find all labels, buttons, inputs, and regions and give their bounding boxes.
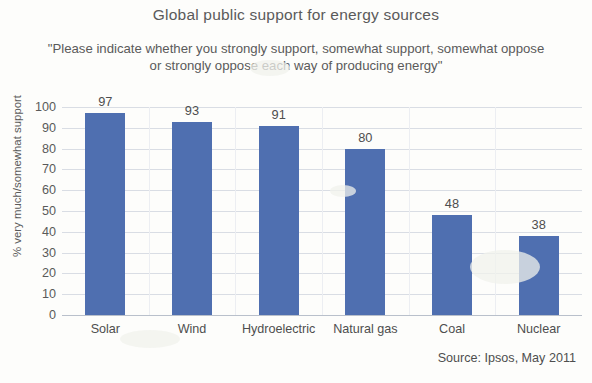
source-note: Source: Ipsos, May 2011 [438,351,576,365]
x-axis-category-label: Nuclear [495,322,582,336]
x-axis-category-label: Hydroelectric [235,322,322,336]
x-axis-category-label: Coal [409,322,496,336]
y-axis-tick-label: 20 [30,267,56,280]
plot-area: 97Solar93Wind91Hydroelectric80Natural ga… [62,107,582,315]
bar[interactable] [259,126,299,315]
y-axis-tick-label: 70 [30,163,56,176]
chart-subtitle-line-1: "Please indicate whether you strongly su… [0,40,592,57]
bar-value-label: 93 [149,105,236,118]
y-axis-tick-label: 40 [30,226,56,239]
bar-value-label: 97 [62,96,149,109]
x-axis-category-label: Wind [149,322,236,336]
chart-subtitle: "Please indicate whether you strongly su… [0,40,592,74]
bar-group: 80Natural gas [322,107,409,315]
bar-group: 97Solar [62,107,149,315]
y-axis-tick-label: 60 [30,184,56,197]
bar-group: 91Hydroelectric [235,107,322,315]
y-axis-tick-label: 100 [30,101,56,114]
y-axis-tick-labels: 1009080706050403020100 [28,107,56,315]
bar-group: 48Coal [409,107,496,315]
bar[interactable] [432,215,472,315]
bar-group: 38Nuclear [495,107,582,315]
x-axis-category-label: Solar [62,322,149,336]
bar-value-label: 38 [495,219,582,232]
chart-subtitle-line-2: or strongly oppose each way of producing… [0,57,592,74]
bar-group: 93Wind [149,107,236,315]
y-axis-tick-label: 80 [30,143,56,156]
y-axis-tick-label: 90 [30,122,56,135]
y-axis-title: % very much/somewhat support [11,81,23,271]
bar[interactable] [172,122,212,315]
bar[interactable] [345,149,385,315]
bar-value-label: 80 [322,132,409,145]
bar-value-label: 91 [235,109,322,122]
y-axis-tick-label: 30 [30,247,56,260]
y-axis-tick-label: 10 [30,288,56,301]
gridline [62,315,582,316]
chart-title: Global public support for energy sources [0,6,592,24]
bar-value-label: 48 [409,198,496,211]
bar[interactable] [85,113,125,315]
x-axis-category-label: Natural gas [322,322,409,336]
y-axis-tick-label: 50 [30,205,56,218]
y-axis-tick-label: 0 [30,309,56,322]
bar[interactable] [519,236,559,315]
